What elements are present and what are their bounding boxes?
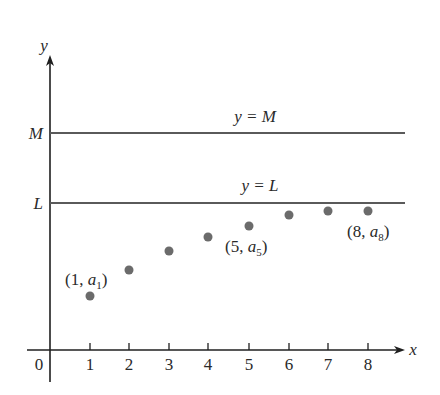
origin-label: 0: [35, 355, 44, 374]
L-label: L: [33, 194, 43, 213]
x-tick-label: 4: [204, 355, 213, 374]
x-ticks: [90, 343, 368, 350]
x-tick-label: 5: [245, 355, 254, 374]
point-a8-label: (8, a8): [347, 222, 389, 243]
point-a5: [245, 222, 254, 231]
x-axis-label: x: [408, 340, 417, 359]
M-label: M: [28, 124, 44, 143]
x-tick-label: 6: [285, 355, 294, 374]
point-a5-label: (5, a5): [225, 237, 267, 258]
x-tick-label: 2: [125, 355, 134, 374]
point-a1: [86, 292, 95, 301]
point-a2: [125, 266, 134, 275]
x-tick-label: 1: [86, 355, 95, 374]
y-axis-label: y: [38, 36, 48, 55]
x-tick-label: 3: [165, 355, 174, 374]
x-tick-label: 8: [364, 355, 373, 374]
line-M-annotation: y = M: [232, 107, 277, 126]
point-a1-label: (1, a1): [65, 270, 107, 291]
x-tick-label: 7: [324, 355, 333, 374]
point-a6: [285, 211, 294, 220]
point-a8: [364, 207, 373, 216]
line-L-annotation: y = L: [240, 176, 279, 195]
sequence-bounded-diagram: 1 2 3 4 5 6 7 8 0 y x M L y = M y = L (1…: [0, 0, 440, 395]
point-a7: [324, 207, 333, 216]
point-a4: [204, 233, 213, 242]
point-a3: [165, 247, 174, 256]
